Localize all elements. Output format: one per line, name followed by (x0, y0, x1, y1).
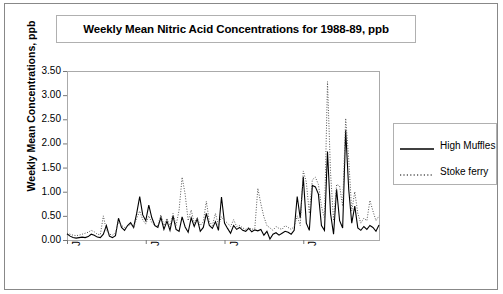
figure-frame: Weekly Mean Nitric Acid Concentrations f… (4, 3, 498, 290)
legend-dotted-line-icon (399, 166, 435, 176)
legend-label: High Muffles (440, 140, 495, 151)
chart-screenshot: Weekly Mean Nitric Acid Concentrations f… (0, 0, 503, 294)
legend-solid-line-icon (399, 140, 435, 150)
legend-item[interactable]: High Muffles (399, 138, 494, 152)
legend-item[interactable]: Stoke ferry (399, 164, 494, 178)
chart-legend: High MufflesStoke ferry (393, 123, 497, 185)
legend-label: Stoke ferry (440, 166, 488, 177)
